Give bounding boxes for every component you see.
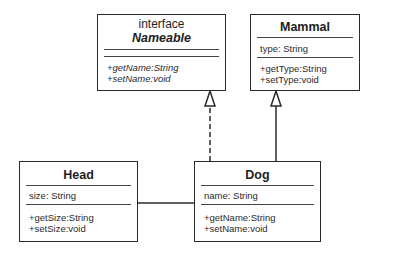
divider xyxy=(201,204,314,205)
method: +getName:String xyxy=(107,62,179,73)
stereotype-label: interface xyxy=(98,17,225,31)
hollow-triangle-icon xyxy=(205,91,215,106)
divider xyxy=(26,204,131,205)
class-box-dog[interactable]: Dog name: String +getName:String +setNam… xyxy=(194,161,321,242)
method: +setType:void xyxy=(260,74,319,85)
class-name: Nameable xyxy=(98,31,225,45)
class-box-head[interactable]: Head size: String +getSize:String +setSi… xyxy=(19,161,138,242)
class-name: Dog xyxy=(195,168,320,182)
method: +getType:String xyxy=(260,63,327,74)
hollow-triangle-icon xyxy=(271,91,281,106)
class-box-mammal[interactable]: Mammal type: String +getType:String +set… xyxy=(250,14,360,91)
divider xyxy=(257,57,353,58)
divider xyxy=(26,185,131,186)
attribute: size: String xyxy=(29,190,76,201)
divider xyxy=(104,49,219,50)
class-name: Mammal xyxy=(251,20,359,34)
method: +getName:String xyxy=(204,212,276,223)
attribute: type: String xyxy=(260,43,308,54)
method: +setName:void xyxy=(107,73,171,84)
attribute: name: String xyxy=(204,190,258,201)
divider xyxy=(201,185,314,186)
divider xyxy=(257,37,353,38)
method: +setSize:void xyxy=(29,223,86,234)
class-box-nameable[interactable]: interface Nameable +getName:String +setN… xyxy=(97,14,226,91)
class-name: Head xyxy=(20,168,137,182)
method: +getSize:String xyxy=(29,212,94,223)
divider xyxy=(104,56,219,57)
method: +setName:void xyxy=(204,223,268,234)
